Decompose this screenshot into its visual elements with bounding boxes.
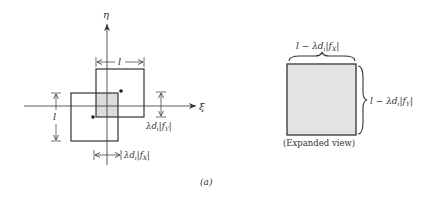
expanded-view-caption: (Expanded view): [283, 138, 355, 148]
center-dot-lower: [91, 115, 95, 119]
left-dim-label: l: [53, 111, 56, 122]
xi-label: ξ: [199, 101, 205, 112]
figure-canvas: η ξ l l λdi|fY| λdi|fX|: [0, 0, 434, 201]
expanded-top-label: l − λdi|fX|: [296, 41, 339, 52]
top-dim-label: l: [118, 56, 121, 67]
center-dot-upper: [119, 89, 123, 93]
expanded-view-diagram: l − λdi|fX| l − λdi|fY| (Expanded view): [283, 41, 413, 148]
side-brace: [358, 66, 367, 134]
bottom-dim-label: λdi|fX|: [123, 150, 150, 161]
eta-label: η: [103, 9, 109, 20]
panel-label: (a): [200, 177, 213, 187]
expanded-side-label: l − λdi|fY|: [370, 96, 413, 107]
right-dim-label: λdi|fY|: [145, 121, 172, 132]
expanded-square: [287, 64, 356, 135]
left-diagram: η ξ l l λdi|fY| λdi|fX|: [24, 9, 205, 165]
top-brace: [289, 52, 355, 61]
